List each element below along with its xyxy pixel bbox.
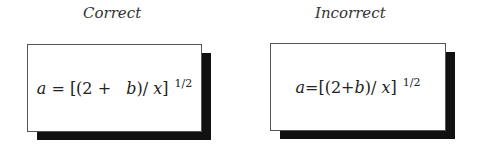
incorrect-label: Incorrect [315, 4, 386, 22]
eq-text: = [(2 + [46, 79, 126, 98]
var-b: b [126, 79, 136, 98]
exponent: 1/2 [175, 77, 193, 90]
var-b: b [355, 78, 365, 97]
eq-text: =[(2+ [305, 78, 354, 97]
incorrect-equation-box: a=[(2+b)/ x]1/2 [270, 43, 446, 131]
correct-label: Correct [83, 4, 141, 22]
var-a: a [296, 78, 306, 97]
var-x: x [382, 78, 391, 97]
var-a: a [37, 79, 47, 98]
correct-equation-box: a = [(2 + b)/ x]1/2 [27, 44, 202, 132]
eq-text: ] [162, 79, 168, 98]
eq-text: )/ [365, 78, 382, 97]
incorrect-equation: a=[(2+b)/ x]1/2 [296, 78, 421, 97]
eq-text: ] [391, 78, 397, 97]
correct-equation: a = [(2 + b)/ x]1/2 [37, 79, 193, 98]
var-x: x [153, 79, 162, 98]
eq-text: )/ [137, 79, 154, 98]
exponent: 1/2 [403, 76, 421, 89]
